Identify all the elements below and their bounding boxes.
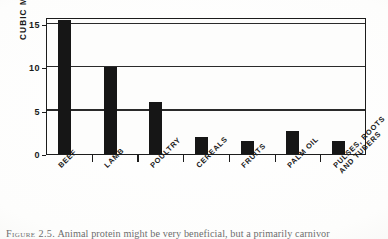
figure-caption: Figure 2.5. Animal protein might be very… <box>6 228 388 239</box>
bar-beef <box>58 20 71 154</box>
x-tick-mark-4 <box>229 155 230 162</box>
y-tick-label-5: 5 <box>18 107 40 117</box>
x-tick-mark-1 <box>92 155 93 162</box>
plot-area <box>46 18 366 155</box>
y-tick-label-0: 0 <box>18 150 40 160</box>
figure-caption-text: Animal protein might be very beneficial,… <box>57 228 329 239</box>
x-tick-mark-6 <box>320 155 321 162</box>
x-tick-mark-5 <box>275 155 276 162</box>
y-axis-title-container: CUBIC METERS PER KILOGRAM <box>4 12 18 158</box>
gridline-15 <box>47 23 365 24</box>
y-tick-label-10: 10 <box>18 63 40 73</box>
gridline-10 <box>47 66 365 67</box>
gridline-5 <box>47 109 365 110</box>
figure-container: CUBIC METERS PER KILOGRAM 051015 BEEFLAM… <box>0 0 388 239</box>
x-tick-mark-2 <box>137 155 138 162</box>
y-tick-label-15: 15 <box>18 20 40 30</box>
x-tick-mark-3 <box>183 155 184 162</box>
figure-number: Figure 2.5. <box>6 228 55 239</box>
bar-poultry <box>149 102 162 154</box>
bar-lamb <box>104 67 117 154</box>
y-tick-mark-0 <box>42 155 46 156</box>
